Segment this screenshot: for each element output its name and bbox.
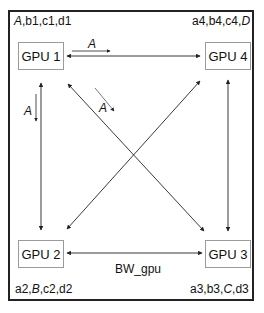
transfer-label-gpu1-gpu3: A <box>99 101 107 115</box>
edge-gpu4-gpu2 <box>67 81 200 229</box>
gpu3-data-label: a3,b3,C,d3 <box>190 282 249 296</box>
gpu1-node: GPU 1 <box>18 42 64 70</box>
gpu1-data-label: A,b1,c1,d1 <box>14 14 71 28</box>
gpu3-node: GPU 3 <box>205 240 251 268</box>
gpu2-node: GPU 2 <box>18 240 64 268</box>
gpu4-data-label: a4,b4,c4,D <box>192 14 250 28</box>
edge-gpu1-gpu3 <box>68 84 204 231</box>
transfer-label-gpu1-gpu2: A <box>24 104 32 118</box>
gpu2-data-label: a2,B,c2,d2 <box>15 282 72 296</box>
gpu4-node: GPU 4 <box>205 42 251 70</box>
bandwidth-label: BW_gpu <box>115 262 161 276</box>
transfer-label-gpu1-gpu4: A <box>88 37 96 51</box>
